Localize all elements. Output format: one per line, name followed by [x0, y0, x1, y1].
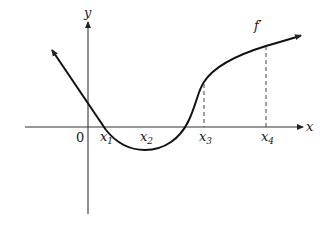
y-axis-label: y — [83, 5, 92, 20]
derivative-curve-left — [52, 50, 106, 130]
x4-label: x4 — [261, 129, 274, 146]
x1-label: x1 — [100, 129, 113, 146]
function-label: f′ — [253, 18, 262, 33]
curve-end-arrow — [296, 36, 301, 38]
x3-label: x3 — [199, 129, 212, 146]
origin-label: 0 — [76, 130, 84, 145]
x2-label: x2 — [140, 129, 153, 146]
x-axis-label: x — [306, 119, 314, 134]
derivative-graph: y x 0 f′ x1 x2 x3 x4 — [0, 0, 325, 227]
